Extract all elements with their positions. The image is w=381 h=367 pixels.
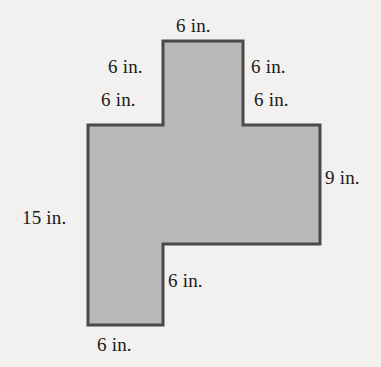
dimension-label-inner-bottom: 6 in. [168, 271, 203, 290]
dimension-label-tab-right-side: 6 in. [251, 57, 286, 76]
composite-polygon [88, 41, 320, 325]
dimension-label-left-side: 15 in. [22, 208, 66, 227]
dimension-label-right-side: 9 in. [325, 168, 360, 187]
figure-canvas: 6 in. 6 in. 6 in. 6 in. 6 in. 9 in. 15 i… [0, 0, 381, 367]
dimension-label-bottom: 6 in. [97, 335, 132, 354]
dimension-label-top-tab: 6 in. [176, 16, 211, 35]
dimension-label-shoulder-right: 6 in. [254, 90, 289, 109]
composite-shape-diagram [0, 0, 381, 367]
dimension-label-shoulder-left: 6 in. [101, 90, 136, 109]
dimension-label-tab-left-side: 6 in. [108, 57, 143, 76]
